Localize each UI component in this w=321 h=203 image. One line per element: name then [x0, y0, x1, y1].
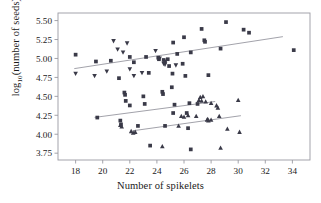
- x-axis-ticks: 182022242628303234: [71, 160, 297, 176]
- x-tick-label-4: 26: [179, 166, 189, 176]
- data-point-square: [144, 55, 148, 59]
- data-point-square: [188, 101, 192, 105]
- y-tick-label-4: 4.75: [36, 73, 52, 83]
- data-point-square: [142, 95, 146, 99]
- data-point-square: [224, 20, 228, 24]
- data-point-triangle-up: [160, 144, 165, 148]
- data-point-triangle-down: [92, 74, 97, 78]
- data-point-square: [124, 99, 128, 103]
- data-point-triangle-up: [237, 130, 242, 134]
- x-axis-label-text: Number of spikelets: [117, 180, 204, 191]
- regression-lines: [74, 37, 283, 131]
- data-point-square: [118, 119, 122, 123]
- data-point-square: [128, 104, 132, 108]
- y-tick-label-7: 5.50: [36, 16, 52, 26]
- data-point-square: [247, 31, 251, 35]
- data-point-square: [109, 59, 113, 63]
- data-point-square: [148, 144, 152, 148]
- data-point-square: [186, 126, 190, 130]
- data-point-square: [123, 93, 127, 97]
- y-axis-label-text: log10(number of seeds): [10, 0, 21, 96]
- x-tick-label-1: 20: [98, 166, 108, 176]
- data-point-square: [189, 51, 193, 55]
- data-point-square: [171, 111, 175, 115]
- data-point-square: [161, 92, 165, 96]
- y-tick-label-5: 5.00: [36, 54, 52, 64]
- x-tick-label-2: 22: [125, 166, 135, 176]
- data-point-square: [74, 53, 78, 57]
- data-point-triangle-up: [203, 99, 208, 103]
- data-point-square: [128, 55, 132, 59]
- data-point-square: [95, 116, 99, 120]
- data-point-square: [166, 57, 170, 61]
- data-point-triangle-down: [153, 49, 158, 53]
- x-tick-label-5: 28: [207, 166, 217, 176]
- data-point-triangle-down: [132, 74, 137, 78]
- scatter-plot-figure: 182022242628303234 3.754.004.254.504.755…: [0, 0, 321, 203]
- data-point-triangle-down: [73, 72, 78, 76]
- x-tick-label-6: 30: [234, 166, 244, 176]
- data-point-square: [163, 124, 167, 128]
- data-point-square: [170, 85, 174, 89]
- x-tick-label-3: 24: [152, 166, 162, 176]
- data-point-square: [132, 60, 136, 64]
- data-point-triangle-down: [140, 71, 145, 75]
- data-point-triangle-down: [125, 41, 130, 45]
- data-point-triangle-up: [194, 114, 199, 118]
- x-axis-label: Number of spikelets: [0, 180, 321, 191]
- data-point-square: [189, 148, 193, 152]
- data-point-square: [175, 52, 179, 56]
- data-point-square: [242, 28, 246, 32]
- data-point-square: [167, 64, 171, 68]
- data-point-square: [181, 62, 185, 66]
- y-tick-label-2: 4.25: [36, 111, 52, 121]
- data-point-square: [203, 40, 207, 44]
- data-point-square: [117, 76, 121, 80]
- data-point-triangle-up: [225, 127, 230, 131]
- data-point-triangle-down: [121, 50, 126, 54]
- y-tick-label-3: 4.50: [36, 92, 52, 102]
- data-point-square: [94, 60, 98, 64]
- data-point-square: [184, 74, 188, 78]
- data-point-square: [147, 71, 151, 75]
- data-point-square: [182, 35, 186, 39]
- plot-frame: [58, 13, 310, 160]
- data-point-triangle-up: [201, 94, 206, 98]
- data-point-square: [219, 47, 223, 51]
- x-tick-label-7: 32: [261, 166, 271, 176]
- data-point-triangle-up: [218, 145, 223, 149]
- plot-canvas: 182022242628303234 3.754.004.254.504.755…: [0, 0, 321, 203]
- y-tick-label-6: 5.25: [36, 35, 52, 45]
- y-axis-label: log10(number of seeds): [10, 0, 24, 117]
- data-point-triangle-up: [236, 98, 241, 102]
- y-tick-label-1: 4.00: [36, 130, 52, 140]
- data-point-square: [173, 103, 177, 107]
- data-point-triangle-down: [174, 63, 179, 67]
- data-point-square: [143, 102, 147, 106]
- x-tick-label-8: 34: [288, 166, 298, 176]
- data-point-square: [200, 27, 204, 31]
- data-point-square: [171, 72, 175, 76]
- data-point-square: [136, 124, 140, 128]
- y-tick-label-0: 3.75: [36, 148, 52, 158]
- data-point-square: [207, 73, 211, 77]
- data-point-triangle-up: [217, 114, 222, 118]
- data-point-triangle-down: [115, 47, 120, 51]
- data-point-triangle-down: [128, 67, 133, 71]
- data-point-square: [292, 48, 296, 52]
- data-point-triangle-down: [104, 69, 109, 73]
- data-point-triangle-down: [111, 39, 116, 43]
- y-axis-ticks: 3.754.004.254.504.755.005.255.50: [36, 16, 58, 159]
- data-point-square: [196, 102, 200, 106]
- x-tick-label-0: 18: [71, 166, 81, 176]
- data-point-square: [171, 41, 175, 45]
